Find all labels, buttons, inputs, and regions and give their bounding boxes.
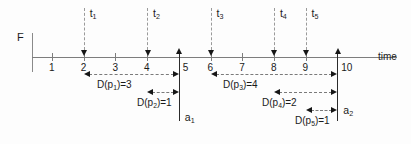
event-label-t4: t4 [280,8,287,19]
event-label-t1: t1 [90,8,97,19]
duration-arrowhead-right-Dp4 [331,89,337,95]
axis-tick [52,53,53,61]
event-label-t2: t2 [153,8,160,19]
axis-tick-label: 8 [271,63,277,73]
duration-arrowhead-left-Dp2 [147,89,153,95]
time-axis [32,57,397,58]
duration-bar-Dp5 [311,110,333,111]
event-dashed-line-t5 [306,8,307,50]
event-arrowhead-t4 [271,50,277,56]
event-label-t3: t3 [217,8,224,19]
anchor-line-a1 [179,53,180,121]
event-dashed-line-t4 [274,8,275,50]
axis-tick-label: 5 [183,63,189,73]
duration-bar-Dp1 [89,74,174,75]
anchor-label-a2: a2 [343,105,353,116]
axis-tick [242,53,243,61]
anchor-label-a1: a1 [185,112,195,123]
axis-tick-label: 7 [239,63,245,73]
event-arrowhead-t1 [81,50,87,56]
duration-arrowhead-right-Dp5 [331,107,337,113]
time-axis-label: time [378,52,397,62]
timeline-diagram: F time 12345678910 t1t2t3t4t5 a1a2 D(p1)… [0,0,411,144]
anchor-arrowhead-a2 [335,48,341,54]
duration-label-Dp5: D(p5)=1 [295,116,330,126]
anchor-arrowhead-a1 [176,48,182,54]
duration-label-Dp3: D(p3)=4 [223,80,258,90]
event-arrowhead-t5 [303,50,309,56]
event-dashed-line-t1 [84,8,85,50]
axis-tick-label: 10 [341,63,352,73]
axis-tick-label: 9 [303,63,309,73]
duration-label-Dp4: D(p4)=2 [262,98,297,108]
event-label-t5: t5 [312,8,319,19]
duration-arrowhead-left-Dp1 [84,71,90,77]
axis-tick-label: 4 [144,63,150,73]
duration-arrowhead-left-Dp5 [306,107,312,113]
duration-label-Dp2: D(p2)=1 [137,98,172,108]
event-dashed-line-t3 [211,8,212,50]
duration-arrowhead-right-Dp3 [331,71,337,77]
duration-bar-Dp4 [279,92,332,93]
event-arrowhead-t2 [145,50,151,56]
duration-bar-Dp3 [216,74,333,75]
axis-tick-label: 3 [112,63,118,73]
duration-arrowhead-left-Dp3 [211,71,217,77]
duration-label-Dp1: D(p1)=3 [97,80,132,90]
anchor-line-a2 [337,53,338,121]
duration-arrowhead-right-Dp1 [173,71,179,77]
event-dashed-line-t2 [147,8,148,50]
duration-arrowhead-right-Dp2 [173,89,179,95]
axis-tick [115,53,116,61]
duration-bar-Dp2 [152,92,174,93]
origin-bar [32,33,33,72]
event-arrowhead-t3 [208,50,214,56]
axis-tick-label: 1 [49,63,55,73]
duration-arrowhead-left-Dp4 [274,89,280,95]
origin-label: F [17,32,24,43]
